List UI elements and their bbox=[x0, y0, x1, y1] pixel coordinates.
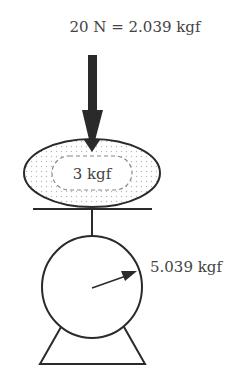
object-weight-label: 3 kgf bbox=[73, 165, 113, 183]
scale-diagram: 20 N = 2.039 kgf 3 kgf 5.039 kgf bbox=[0, 0, 250, 390]
force-label: 20 N = 2.039 kgf bbox=[69, 18, 201, 36]
force-arrow-icon bbox=[82, 55, 103, 152]
scale-reading-label: 5.039 kgf bbox=[150, 258, 223, 276]
scale-dial bbox=[42, 236, 142, 338]
